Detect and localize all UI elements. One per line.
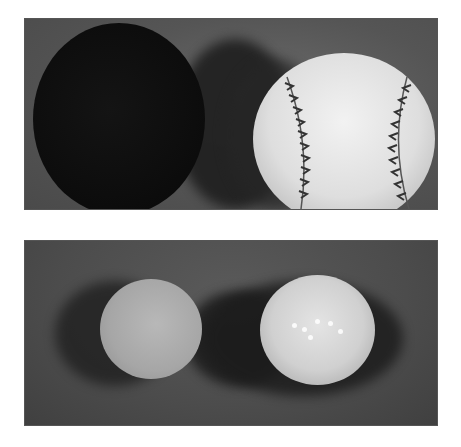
dimpled-golf-ball — [260, 275, 375, 385]
small-smooth-ball — [100, 279, 202, 379]
baseball — [253, 53, 435, 210]
highlight — [302, 327, 307, 332]
highlight — [292, 323, 297, 328]
highlight — [328, 321, 333, 326]
baseball-seam-left — [281, 73, 321, 210]
black-ball — [33, 23, 205, 210]
highlight — [338, 329, 343, 334]
baseball-seam-right — [379, 73, 419, 210]
highlight — [308, 335, 313, 340]
highlight — [315, 319, 320, 324]
top-panel-photo — [24, 18, 438, 210]
bottom-panel-photo — [24, 240, 438, 426]
figure — [24, 18, 438, 426]
